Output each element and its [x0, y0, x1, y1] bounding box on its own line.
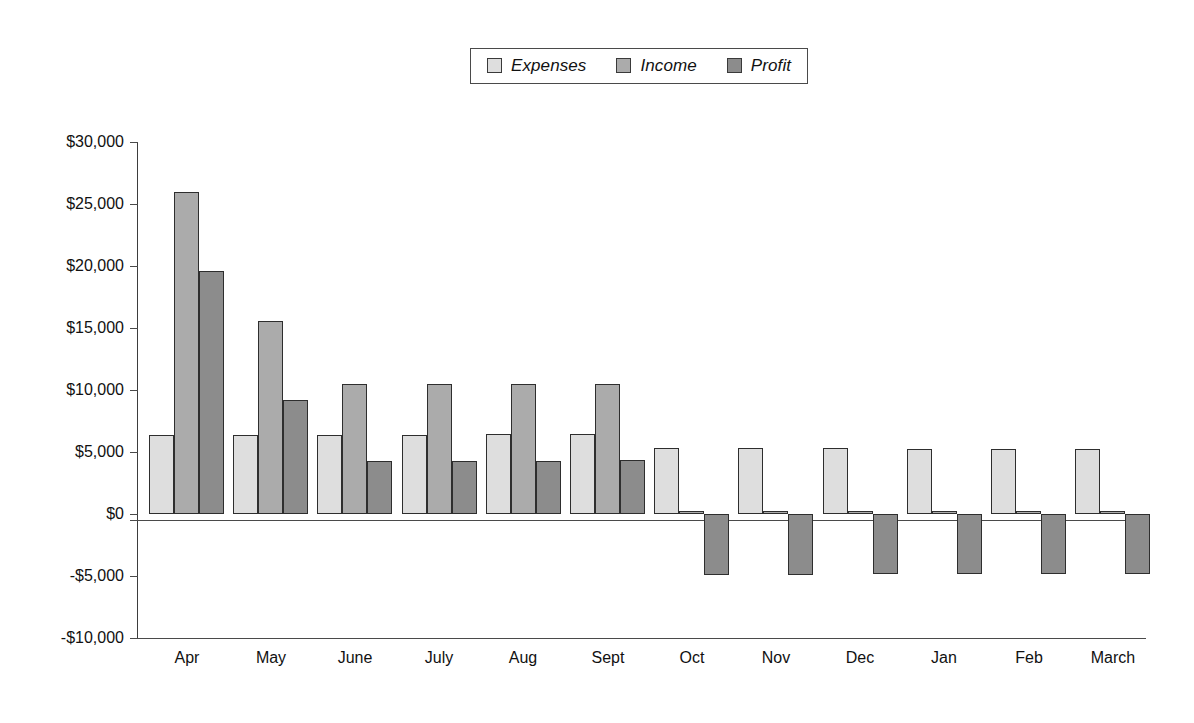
bar-profit-nov[interactable]: [788, 514, 813, 575]
x-axis-label-dec: Dec: [846, 650, 874, 666]
bar-expenses-july[interactable]: [402, 435, 427, 514]
bar-income-nov[interactable]: [763, 511, 788, 514]
bar-expenses-may[interactable]: [233, 435, 258, 514]
bar-income-oct[interactable]: [679, 511, 704, 514]
bar-profit-may[interactable]: [283, 400, 308, 514]
bar-income-july[interactable]: [427, 384, 452, 514]
bar-expenses-feb[interactable]: [991, 449, 1016, 514]
bar-income-june[interactable]: [342, 384, 367, 514]
bar-profit-apr[interactable]: [199, 271, 224, 514]
bar-income-apr[interactable]: [174, 192, 199, 514]
bar-profit-june[interactable]: [367, 461, 392, 514]
bar-income-jan[interactable]: [932, 511, 957, 514]
bar-expenses-jan[interactable]: [907, 449, 932, 514]
bar-income-sept[interactable]: [595, 384, 620, 514]
bar-profit-sept[interactable]: [620, 460, 645, 514]
x-axis-label-march: March: [1091, 650, 1135, 666]
x-axis-label-may: May: [256, 650, 286, 666]
x-axis-label-jan: Jan: [931, 650, 957, 666]
bar-income-march[interactable]: [1100, 511, 1125, 514]
bar-profit-july[interactable]: [452, 461, 477, 514]
x-axis-label-sept: Sept: [592, 650, 625, 666]
bar-income-feb[interactable]: [1016, 511, 1041, 514]
x-axis-label-aug: Aug: [509, 650, 537, 666]
bar-expenses-oct[interactable]: [654, 448, 679, 514]
bar-profit-march[interactable]: [1125, 514, 1150, 574]
x-axis-label-feb: Feb: [1015, 650, 1043, 666]
bar-income-may[interactable]: [258, 321, 283, 514]
bar-profit-jan[interactable]: [957, 514, 982, 574]
bars-layer: [0, 0, 1194, 723]
bar-profit-oct[interactable]: [704, 514, 729, 575]
bar-expenses-march[interactable]: [1075, 449, 1100, 514]
bar-profit-dec[interactable]: [873, 514, 898, 574]
bar-expenses-dec[interactable]: [823, 448, 848, 514]
bar-expenses-sept[interactable]: [570, 434, 595, 514]
x-axis-label-apr: Apr: [175, 650, 200, 666]
bar-profit-feb[interactable]: [1041, 514, 1066, 574]
bar-income-aug[interactable]: [511, 384, 536, 514]
bar-profit-aug[interactable]: [536, 461, 561, 514]
bar-expenses-nov[interactable]: [738, 448, 763, 514]
bar-chart-figure: Expenses Income Profit $30,000$25,000$20…: [0, 0, 1194, 723]
x-axis-label-nov: Nov: [762, 650, 790, 666]
bar-expenses-june[interactable]: [317, 435, 342, 514]
bar-income-dec[interactable]: [848, 511, 873, 514]
x-axis-label-july: July: [425, 650, 453, 666]
bar-expenses-aug[interactable]: [486, 434, 511, 514]
x-axis-label-june: June: [338, 650, 373, 666]
x-axis-label-oct: Oct: [680, 650, 705, 666]
bar-expenses-apr[interactable]: [149, 435, 174, 514]
